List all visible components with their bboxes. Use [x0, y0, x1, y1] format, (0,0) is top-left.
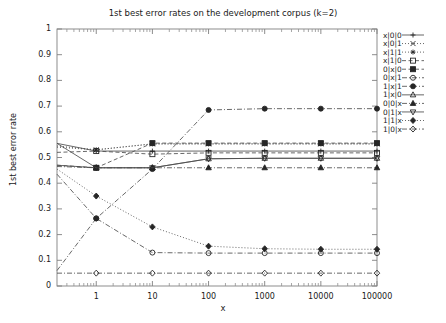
legend-label: 1|0|x	[383, 125, 402, 134]
y-tick-label: 0.1	[21, 255, 51, 264]
y-tick-label: 0.8	[21, 75, 51, 84]
series-0-0-x	[57, 165, 380, 170]
y-tick-label: 0	[21, 281, 51, 290]
y-tick-label: 0.7	[21, 101, 51, 110]
series-0-x-0	[57, 141, 380, 171]
x-tick-label: 1000	[242, 292, 288, 301]
x-tick-label: 10000	[298, 292, 344, 301]
y-tick-label: 0.2	[21, 230, 51, 239]
y-tick-label: 0.3	[21, 204, 51, 213]
y-tick-label: 0.6	[21, 127, 51, 136]
series-x-1-0	[57, 149, 380, 157]
series-0-1-x	[57, 143, 380, 170]
series-1-0-x	[57, 270, 380, 276]
x-tick-label: 10	[129, 292, 175, 301]
plot-canvas: x|0|0x|0|1x|1|1x|1|00|x|00|x|11|x|11|x|0…	[0, 0, 446, 323]
x-tick-label: 1	[73, 292, 119, 301]
y-tick-label: 0.4	[21, 178, 51, 187]
y-tick-label: 0.5	[21, 153, 51, 162]
plot-frame	[57, 29, 377, 286]
y-tick-label: 0.9	[21, 50, 51, 59]
y-tick-label: 1	[21, 24, 51, 33]
series-1-x-1	[57, 106, 380, 270]
chart-legend: x|0|0x|0|1x|1|1x|1|00|x|00|x|11|x|11|x|0…	[383, 31, 424, 134]
chart-root: 1st best error rates on the development …	[0, 0, 446, 323]
x-tick-label: 100	[186, 292, 232, 301]
x-tick-label: 100000	[354, 292, 400, 301]
series-0-x-1	[57, 174, 380, 255]
